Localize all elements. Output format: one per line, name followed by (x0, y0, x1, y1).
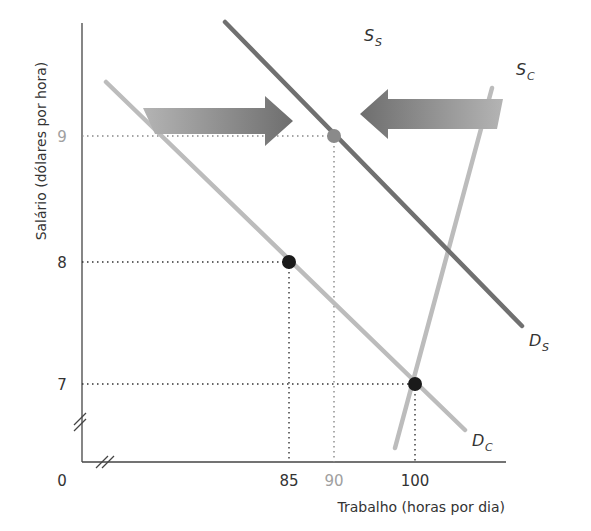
svg-text:C: C (527, 70, 535, 83)
x-tick-90: 90 (324, 472, 343, 490)
svg-text:S: S (516, 60, 526, 79)
label-dc: D C (472, 431, 493, 454)
x-tick-0: 0 (57, 472, 67, 490)
y-axis-title: Salário (dólares por hora) (33, 62, 49, 241)
equilibrium-point-100-7 (408, 377, 422, 391)
svg-text:C: C (485, 441, 493, 454)
svg-text:S: S (375, 36, 382, 49)
ss-ds-curve (225, 22, 522, 326)
y-axis-break-icon (74, 413, 86, 431)
y-tick-9: 9 (57, 128, 67, 146)
label-sc: S C (516, 60, 535, 83)
y-tick-8: 8 (57, 254, 67, 272)
equilibrium-point-90-9 (327, 129, 341, 143)
svg-text:S: S (542, 341, 549, 354)
label-ds: D S (529, 331, 549, 354)
label-ss: S S (364, 26, 382, 49)
equilibrium-point-85-8 (282, 255, 296, 269)
svg-text:D: D (472, 431, 484, 450)
sc-curve (395, 88, 492, 448)
svg-text:D: D (529, 331, 541, 350)
labor-market-chart: 9 8 7 0 85 90 100 Trabalho (horas por di… (0, 0, 591, 531)
x-tick-85: 85 (279, 472, 298, 490)
x-tick-100: 100 (401, 472, 430, 490)
y-tick-7: 7 (57, 376, 67, 394)
x-axis-title: Trabalho (horas por dia) (336, 499, 505, 515)
guide-lines (82, 136, 415, 462)
svg-text:S: S (364, 26, 374, 45)
